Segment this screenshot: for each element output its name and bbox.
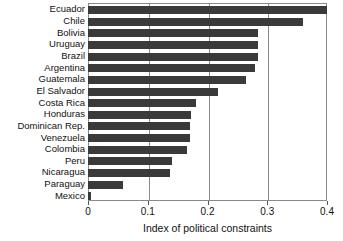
category-label: Brazil [0, 51, 85, 61]
category-label: Peru [0, 156, 85, 166]
category-label: Costa Rica [0, 98, 85, 108]
bar-row [88, 169, 170, 177]
bar-row [88, 157, 172, 165]
bar [88, 169, 170, 177]
bar [88, 64, 255, 72]
bar [88, 88, 218, 96]
bar-row [88, 99, 196, 107]
bar [88, 99, 196, 107]
bar-series [88, 3, 327, 201]
bar [88, 18, 303, 26]
category-label: Uruguay [0, 39, 85, 49]
bar-row [88, 41, 258, 49]
category-label: Honduras [0, 109, 85, 119]
bar-row [88, 6, 327, 14]
bar-row [88, 181, 123, 189]
x-tick-label: 0.1 [141, 206, 155, 218]
category-label: Colombia [0, 144, 85, 154]
category-label: Chile [0, 16, 85, 26]
bar [88, 41, 258, 49]
bar-row [88, 18, 303, 26]
category-label: Ecuador [0, 4, 85, 14]
x-tick [148, 201, 149, 205]
category-axis-labels: EcuadorChileBoliviaUruguayBrazilArgentin… [0, 3, 85, 201]
bar-row [88, 122, 190, 130]
bar-row [88, 64, 255, 72]
x-tick-label: 0.4 [320, 206, 334, 218]
x-tick [327, 201, 328, 205]
category-label: El Salvador [0, 86, 85, 96]
bar [88, 111, 191, 119]
bar [88, 181, 123, 189]
bar [88, 134, 190, 142]
bar [88, 192, 91, 200]
bar [88, 157, 172, 165]
category-label: Nicaragua [0, 167, 85, 177]
x-tick [267, 201, 268, 205]
category-label: Paraguay [0, 179, 85, 189]
x-tick [208, 201, 209, 205]
x-axis-title: Index of political constraints [88, 222, 327, 235]
category-label: Guatemala [0, 74, 85, 84]
bar-row [88, 146, 187, 154]
bar [88, 29, 258, 37]
bar-row [88, 76, 246, 84]
bar [88, 76, 246, 84]
category-label: Mexico [0, 191, 85, 201]
category-label: Dominican Rep. [0, 121, 85, 131]
category-label: Bolivia [0, 28, 85, 38]
x-tick [88, 201, 89, 205]
category-label: Venezuela [0, 133, 85, 143]
bar-row [88, 29, 258, 37]
bar-row [88, 192, 91, 200]
bar [88, 6, 327, 14]
x-tick-label: 0.2 [201, 206, 215, 218]
bar-row [88, 53, 258, 61]
bar-row [88, 111, 191, 119]
bar-row [88, 88, 218, 96]
bar-row [88, 134, 190, 142]
bar [88, 53, 258, 61]
category-label: Argentina [0, 63, 85, 73]
x-tick-label: 0 [85, 206, 91, 218]
x-axis-tick-labels: 00.10.20.30.4 [88, 206, 327, 220]
bar [88, 146, 187, 154]
x-tick-label: 0.3 [260, 206, 274, 218]
bar [88, 122, 190, 130]
political-constraints-bar-chart: EcuadorChileBoliviaUruguayBrazilArgentin… [0, 0, 343, 241]
